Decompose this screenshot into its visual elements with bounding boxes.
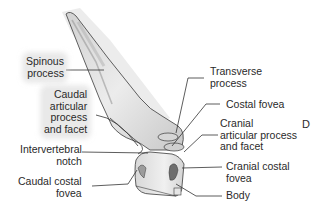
- leader-cranial-articular: [184, 135, 218, 152]
- label-spinous-process: Spinous process: [26, 56, 64, 79]
- body-end-plate: [174, 188, 181, 195]
- label-transverse-process: Transverse process: [210, 66, 262, 89]
- label-intervertebral-notch: Intervertebral notch: [20, 144, 82, 167]
- transverse-process-disc: [158, 133, 178, 141]
- label-costal-fovea: Costal fovea: [226, 99, 284, 111]
- leader-cranial-costal-fovea: [182, 167, 222, 168]
- leader-caudal-costal-fovea: [92, 170, 137, 186]
- vertebra-diagram: Spinous process Caudal articular process…: [0, 0, 314, 212]
- leader-intervertebral-notch: [82, 152, 148, 153]
- label-cranial-articular-process: Cranial articular process and facet: [220, 118, 297, 153]
- panel-letter: D: [302, 118, 310, 130]
- label-body: Body: [226, 190, 250, 202]
- costal-fovea-disc: [164, 143, 184, 151]
- leader-transverse-process: [176, 78, 204, 133]
- label-caudal-articular-process: Caudal articular process and facet: [44, 89, 87, 135]
- leader-body: [176, 184, 222, 196]
- label-caudal-costal-fovea: Caudal costal fovea: [18, 176, 82, 199]
- label-cranial-costal-fovea: Cranial costal fovea: [226, 161, 290, 184]
